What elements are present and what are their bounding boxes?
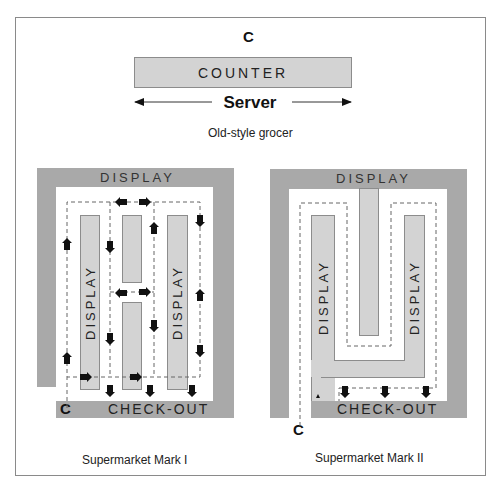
mark1-flow-arrows [62, 197, 205, 397]
mark2-customer-path [300, 203, 436, 426]
flow-overlay [0, 0, 502, 494]
